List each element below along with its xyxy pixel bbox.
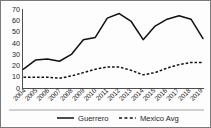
- y-tick-label: 30: [12, 50, 20, 59]
- legend-label-guerrero: Guerrero: [78, 114, 108, 123]
- y-tick-label: 60: [12, 16, 20, 25]
- legend: Guerrero Mexico Avg: [57, 114, 179, 123]
- y-tick-label: 70: [12, 5, 20, 14]
- series-line-mexico-avg: [24, 62, 204, 78]
- legend-label-mexico-avg: Mexico Avg: [140, 114, 179, 123]
- y-axis-tick-labels: 70 60 50 40 30 20 10 0: [12, 5, 20, 93]
- line-chart: 70 60 50 40 30 20 10 0 2004 2005 2006 20…: [1, 1, 211, 128]
- y-tick-label: 40: [12, 39, 20, 48]
- chart-figure: 70 60 50 40 30 20 10 0 2004 2005 2006 20…: [0, 0, 211, 128]
- series-line-guerrero: [24, 14, 204, 70]
- y-tick-label: 10: [12, 72, 20, 81]
- y-tick-label: 20: [12, 61, 20, 70]
- y-tick-label: 50: [12, 27, 20, 36]
